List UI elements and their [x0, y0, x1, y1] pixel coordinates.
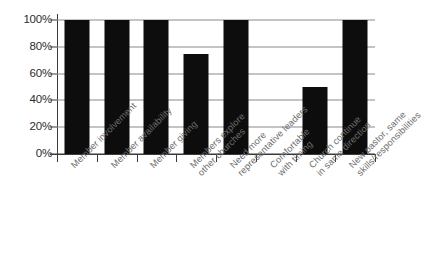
- y-axis-labels: 100%80%60%40%20%0%: [0, 0, 52, 261]
- y-axis-tick-mark: [50, 46, 57, 47]
- y-axis-tick-mark: [50, 127, 57, 128]
- y-axis-tick-mark: [50, 73, 57, 74]
- x-axis-tick-mark: [176, 155, 177, 162]
- y-axis-tick-label: 40%: [6, 95, 52, 107]
- y-axis-tick-label: 80%: [6, 41, 52, 53]
- x-axis-tick-mark: [57, 155, 58, 162]
- x-axis-tick-mark: [97, 155, 98, 162]
- y-axis-tick-mark: [50, 100, 57, 101]
- y-axis-tick-label: 20%: [6, 121, 52, 133]
- y-axis-tick-label: 0%: [6, 148, 52, 160]
- y-axis-tick-label: 100%: [6, 14, 52, 26]
- x-axis-labels: Member involvementMember availabilityMem…: [57, 163, 391, 261]
- x-axis-tick-mark: [137, 155, 138, 162]
- y-axis-tick-label: 60%: [6, 68, 52, 80]
- y-axis-tick-mark: [50, 20, 57, 21]
- bar-slot: [57, 20, 97, 154]
- bar: [64, 20, 89, 154]
